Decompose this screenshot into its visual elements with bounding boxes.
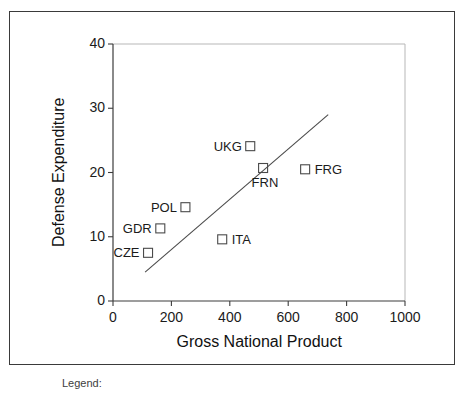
data-point-label: POL [151,200,177,215]
data-point-marker [246,142,255,151]
data-point-label: ITA [232,232,251,247]
data-point-marker [144,248,153,257]
data-point-label: CZE [114,245,140,260]
y-axis-title: Defense Expenditure [50,98,68,247]
x-tick-label: 600 [258,309,318,325]
y-axis-ticks [108,44,113,301]
x-axis-title: Gross National Product [177,333,342,351]
x-tick-label: 1000 [375,309,435,325]
data-point-marker [301,165,310,174]
y-tick-label: 20 [69,164,105,180]
scatter-chart: 010203040 02004006008001000 CZEGDRPOLITA… [0,0,465,396]
y-tick-label: 40 [69,35,105,51]
data-point-label: FRN [252,175,279,190]
data-point-label: GDR [123,221,152,236]
x-tick-label: 800 [317,309,377,325]
y-tick-label: 0 [69,292,105,308]
data-point-marker [181,203,190,212]
x-tick-label: 200 [141,309,201,325]
x-tick-label: 400 [200,309,260,325]
data-point-marker [218,235,227,244]
legend-caption: Legend: [62,377,102,389]
y-tick-label: 10 [69,228,105,244]
y-tick-label: 30 [69,99,105,115]
x-axis-ticks [113,301,405,306]
data-point-label: FRG [315,162,342,177]
x-tick-label: 0 [83,309,143,325]
data-point-marker [156,224,165,233]
data-point-label: UKG [214,139,242,154]
